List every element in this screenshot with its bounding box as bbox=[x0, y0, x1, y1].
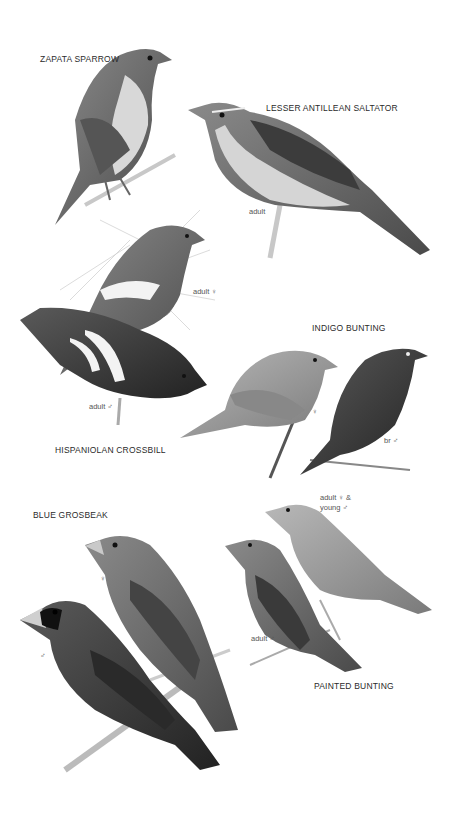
painted-bunting-illustration bbox=[225, 505, 432, 672]
species-label-zapata-sparrow: ZAPATA SPARROW bbox=[40, 54, 119, 64]
label-painted-adult-male: adult ♂ bbox=[251, 634, 275, 643]
label-saltator-adult: adult bbox=[249, 207, 265, 216]
label-crossbill-adult-female: adult ♀ bbox=[193, 287, 217, 296]
species-label-indigo-bunting: INDIGO BUNTING bbox=[312, 323, 386, 333]
species-label-blue-grosbeak: BLUE GROSBEAK bbox=[33, 510, 108, 520]
blue-grosbeak-illustration bbox=[20, 536, 238, 770]
species-label-painted-bunting: PAINTED BUNTING bbox=[314, 681, 394, 691]
lesser-antillean-saltator-illustration bbox=[188, 103, 430, 258]
bird-plate: ZAPATA SPARROW LESSER ANTILLEAN SALTATOR… bbox=[0, 0, 461, 813]
indigo-bunting-illustration bbox=[180, 349, 428, 478]
species-label-lesser-antillean-saltator: LESSER ANTILLEAN SALTATOR bbox=[266, 103, 398, 113]
label-crossbill-adult-male: adult ♂ bbox=[89, 402, 113, 411]
label-painted-adult-female: adult ♀ & bbox=[320, 493, 351, 502]
species-label-hispaniolan-crossbill: HISPANIOLAN CROSSBILL bbox=[55, 445, 166, 455]
bird-illustrations bbox=[0, 0, 461, 813]
label-grosbeak-female: ♀ bbox=[100, 574, 106, 583]
label-grosbeak-male: ♂ bbox=[40, 651, 46, 660]
zapata-sparrow-illustration bbox=[55, 49, 175, 225]
label-painted-young-male: young ♂ bbox=[320, 503, 348, 512]
label-indigo-breeding-male: br ♂ bbox=[384, 436, 398, 445]
label-indigo-female: ♀ bbox=[312, 407, 318, 416]
hispaniolan-crossbill-illustration bbox=[20, 210, 215, 425]
